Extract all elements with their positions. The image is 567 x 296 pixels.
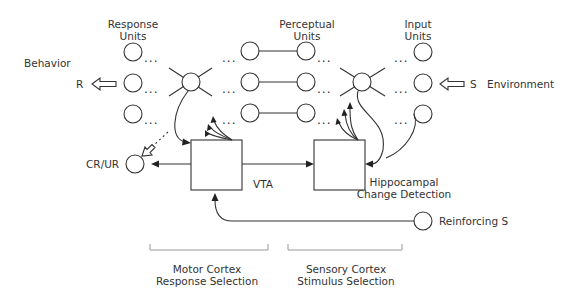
response-unit-2	[124, 74, 142, 92]
perceptual-unit-left-3	[241, 104, 259, 122]
motor-cortex-label-2: Response Selection	[156, 275, 258, 287]
response-units-label-2: Units	[120, 30, 147, 42]
arrowhead-icon	[212, 193, 219, 201]
r-label: R	[76, 78, 83, 90]
ellipsis: ...	[394, 113, 408, 127]
response-unit-1	[124, 43, 142, 61]
perceptual-unit-left-2	[241, 73, 259, 91]
dotted-link	[154, 132, 168, 145]
hippocampal-box	[314, 140, 365, 190]
ellipsis: ...	[144, 82, 158, 96]
input-unit-3	[414, 105, 432, 123]
arrowhead-icon	[205, 130, 210, 137]
ellipsis: ...	[222, 51, 236, 65]
reinforcing-s-label: Reinforcing S	[439, 215, 508, 227]
response-units-label: Response	[108, 18, 158, 30]
ellipsis: ...	[222, 113, 236, 127]
ellipsis: ...	[317, 51, 331, 65]
sensory-cortex-label-2: Stimulus Selection	[297, 275, 394, 287]
input-units-label-2: Units	[405, 30, 432, 42]
input-unit-1	[414, 43, 432, 61]
perceptual-unit-right-2	[297, 73, 315, 91]
ellipsis: ...	[394, 82, 408, 96]
reinforcing-to-motor-line	[215, 200, 414, 221]
ellipsis: ...	[144, 113, 158, 127]
input-hidden-unit	[353, 73, 371, 91]
neural-network-diagram: Response Units Perceptual Units Input Un…	[0, 0, 567, 296]
arrowhead-icon	[151, 161, 159, 168]
s-input-arrow-icon	[440, 78, 464, 90]
response-to-motor-curve	[175, 91, 188, 142]
arrowhead-icon	[211, 116, 217, 123]
arrowhead-icon	[207, 124, 213, 131]
input-units-label: Input	[404, 18, 431, 30]
r-output-arrow-icon	[92, 78, 116, 90]
arrowhead-icon	[365, 161, 373, 168]
cr-ur-unit	[126, 155, 144, 173]
ellipsis: ...	[222, 82, 236, 96]
motor-cortex-box	[191, 140, 242, 190]
arrowhead-icon	[306, 161, 314, 168]
ellipsis: ...	[317, 82, 331, 96]
perceptual-unit-right-3	[297, 104, 315, 122]
arrowhead-icon	[347, 102, 353, 109]
arrowhead-icon	[342, 109, 348, 116]
response-unit-3	[124, 105, 142, 123]
reinforcing-s-unit	[414, 212, 432, 230]
perceptual-units-label: Perceptual	[279, 18, 335, 30]
arrowhead-icon	[336, 118, 342, 125]
vta-label: VTA	[253, 178, 274, 190]
hippocampal-label: Hippocampal	[369, 176, 438, 188]
hollow-arrow-icon	[142, 145, 155, 157]
motor-cortex-label: Motor Cortex	[173, 263, 241, 275]
perceptual-unit-right-1	[297, 42, 315, 60]
ellipsis: ...	[144, 51, 158, 65]
perceptual-unit-left-1	[241, 42, 259, 60]
s-label: S	[470, 78, 477, 90]
hippocampal-label-2: Change Detection	[357, 188, 452, 200]
response-hidden-unit	[182, 73, 200, 91]
ellipsis: ...	[317, 113, 331, 127]
environment-label: Environment	[487, 78, 554, 90]
arrowhead-icon	[182, 139, 191, 146]
fan-arrow	[350, 108, 358, 140]
input-unit-2	[414, 74, 432, 92]
perceptual-units-label-2: Units	[294, 30, 321, 42]
motor-cortex-bracket	[150, 244, 268, 250]
sensory-cortex-label: Sensory Cortex	[306, 263, 386, 275]
behavior-label: Behavior	[24, 57, 71, 69]
ellipsis: ...	[394, 51, 408, 65]
cr-ur-label: CR/UR	[86, 158, 119, 170]
sensory-cortex-bracket	[288, 244, 402, 250]
